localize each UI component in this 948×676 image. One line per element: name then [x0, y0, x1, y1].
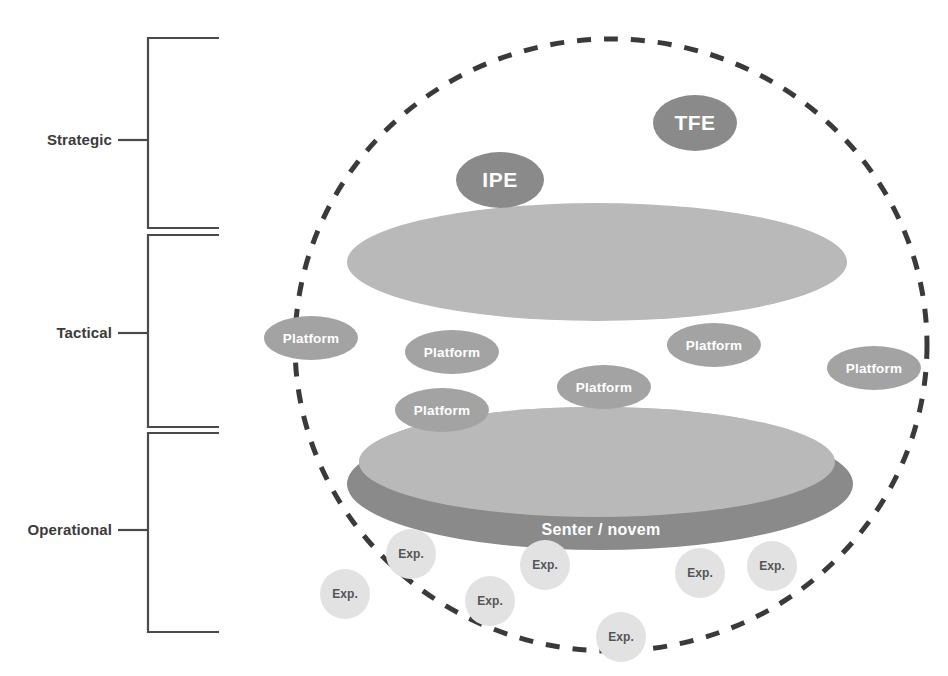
platform-ellipse[interactable]: [395, 388, 489, 432]
diagram-graphics: [0, 0, 948, 676]
bracket-tactical: [148, 235, 219, 427]
experiment-circles: [320, 529, 797, 662]
axis-label-tactical: Tactical: [0, 324, 112, 341]
exp-circle[interactable]: [747, 541, 797, 591]
bracket-strategic: [148, 38, 219, 228]
exp-circle[interactable]: [386, 529, 436, 579]
platform-ellipse[interactable]: [405, 330, 499, 374]
exp-circle[interactable]: [465, 576, 515, 626]
axis-label-strategic: Strategic: [0, 131, 112, 148]
exp-circle[interactable]: [675, 548, 725, 598]
diagram-canvas: Strategic Tactical Operational TFE IPE P…: [0, 0, 948, 676]
platform-ellipse[interactable]: [264, 316, 358, 360]
platform-ellipse[interactable]: [557, 365, 651, 409]
exp-circle[interactable]: [320, 569, 370, 619]
axis-label-operational: Operational: [0, 521, 112, 538]
upper-strategic-ellipse: [347, 203, 847, 321]
bracket-operational: [148, 433, 219, 632]
platform-ellipse[interactable]: [667, 323, 761, 367]
platform-ellipse[interactable]: [827, 346, 921, 390]
ipe-ellipse[interactable]: [456, 152, 544, 208]
level-bracket-axis: [118, 38, 219, 632]
exp-circle[interactable]: [520, 540, 570, 590]
exp-circle[interactable]: [596, 612, 646, 662]
tfe-ellipse[interactable]: [653, 95, 737, 151]
